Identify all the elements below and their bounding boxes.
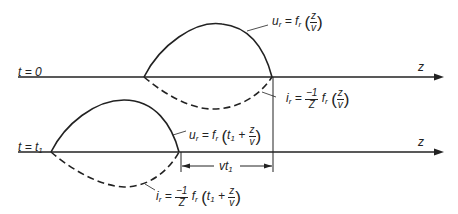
displacement-label: vt1 (219, 160, 233, 174)
z-axis-label-t1: z (418, 136, 424, 148)
z-axis-label-t0: z (418, 61, 424, 73)
voltage-wave-t0 (144, 24, 272, 77)
arrow-icon (434, 149, 444, 156)
arrow-icon (434, 74, 444, 81)
time-label-t1: t = t1 (18, 141, 43, 155)
time-label-t0: t = 0 (18, 66, 42, 78)
voltage-wave-t1 (51, 100, 179, 152)
current-equation-t1: ir = −1Z fr (t1 + zv) (156, 186, 241, 208)
traveling-wave-diagram: t = 0 z z ur = fr (zv) ir = −1Z fr (zv) … (0, 0, 458, 214)
voltage-equation-t0: ur = fr (zv) (272, 11, 323, 33)
voltage-equation-t1: ur = fr (t1 + zv) (189, 125, 261, 147)
diagram-graphics (0, 0, 458, 214)
current-wave-t1 (51, 152, 179, 187)
current-equation-t0: ir = −1Z fr (zv) (286, 88, 349, 110)
current-wave-t0 (144, 77, 272, 109)
